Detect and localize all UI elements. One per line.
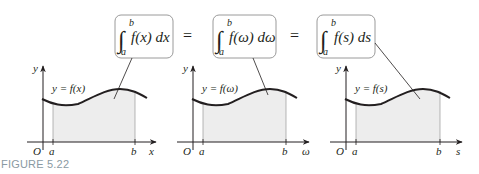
x-axis-label: ω: [302, 145, 310, 157]
integral-box-s: ∫ b a f(s) ds: [317, 15, 375, 58]
upper-limit: b: [129, 17, 134, 28]
origin-label: O: [183, 145, 191, 157]
graph-panel-s: y y = f(s) O a b s: [330, 43, 462, 157]
integrand: f(s) ds: [334, 29, 371, 46]
lower-limit: a: [323, 46, 328, 57]
curve-label: y = f(x): [51, 82, 85, 95]
a-label: a: [199, 145, 205, 157]
a-label: a: [49, 145, 55, 157]
y-axis-label: y: [182, 62, 188, 74]
graph-panel-x: y y = f(x) O a b x: [27, 58, 156, 157]
figure-caption: FIGURE 5.22: [1, 158, 69, 170]
curve-label: y = f(s): [354, 82, 388, 95]
lower-limit: a: [121, 46, 126, 57]
integral-box-omega: ∫ b a f(ω) dω: [213, 15, 276, 58]
a-label: a: [352, 145, 358, 157]
upper-limit: b: [227, 17, 232, 28]
integrand: f(x) dx: [131, 29, 170, 46]
lower-limit: a: [219, 46, 224, 57]
integrand: f(ω) dω: [229, 29, 276, 46]
curve-label: y = f(ω): [201, 82, 238, 95]
figure-canvas: ∫ b a f(x) dx = ∫ b a f(ω) dω = ∫ b a f(…: [0, 0, 479, 174]
b-label: b: [131, 145, 137, 157]
y-axis-label: y: [32, 62, 38, 74]
graph-panel-omega: y y = f(ω) O a b ω: [177, 58, 310, 157]
y-axis-label: y: [335, 62, 341, 74]
b-label: b: [436, 145, 442, 157]
x-axis-label: x: [148, 145, 154, 157]
equals-sign: =: [290, 27, 299, 44]
origin-label: O: [33, 145, 41, 157]
equals-sign: =: [183, 27, 192, 44]
origin-label: O: [336, 145, 344, 157]
b-label: b: [282, 145, 288, 157]
upper-limit: b: [331, 17, 336, 28]
integral-box-x: ∫ b a f(x) dx: [115, 15, 173, 58]
x-axis-label: s: [456, 145, 460, 157]
